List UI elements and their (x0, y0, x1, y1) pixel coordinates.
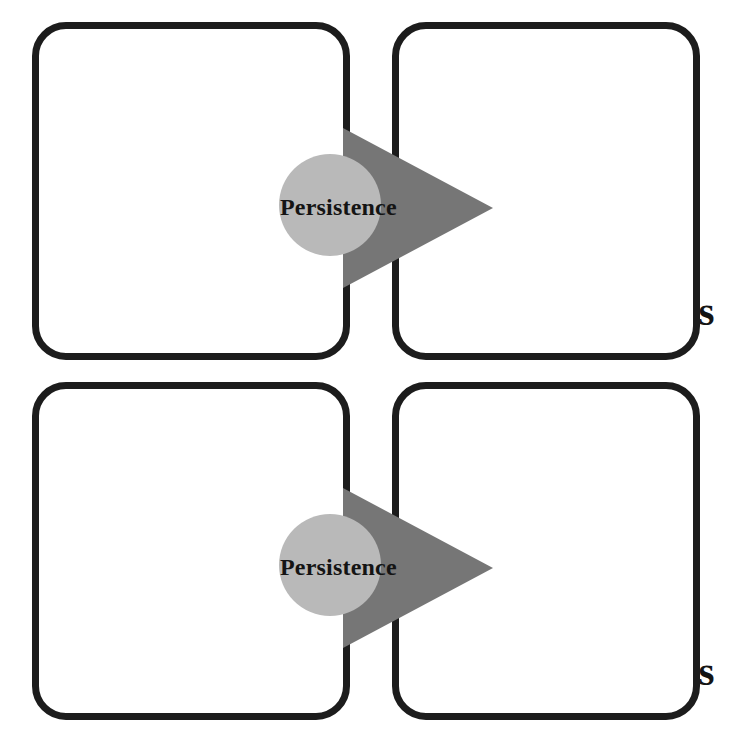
flow-diagram-canvas: Blocker Actions Persistence Blocker Acti… (0, 0, 741, 740)
persistence-label: Persistence (280, 554, 510, 580)
diagram-row: Blocker Actions Persistence (0, 22, 741, 362)
persistence-label: Persistence (280, 194, 510, 220)
diagram-row: Blocker Actions Persistence (0, 382, 741, 722)
